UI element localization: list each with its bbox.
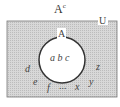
element-e: e (33, 76, 37, 87)
element-x: x (75, 81, 79, 92)
element-z: z (96, 61, 100, 72)
element-y: y (89, 76, 93, 87)
inside-elements: a b c (50, 52, 69, 63)
set-a-label: A (57, 28, 66, 39)
element-d: d (25, 63, 30, 74)
element-f: f (47, 82, 50, 93)
element-ellipsis: ... (59, 80, 67, 91)
universe-label: U (99, 15, 106, 26)
